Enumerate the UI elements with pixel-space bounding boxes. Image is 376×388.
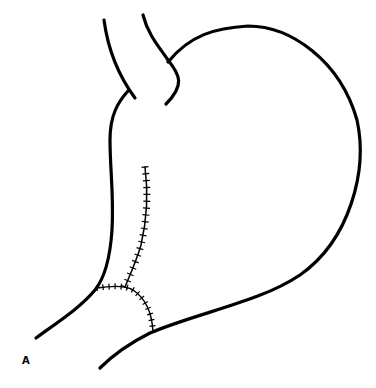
panel-label: A xyxy=(22,355,30,366)
staple-tick xyxy=(121,284,122,290)
arc-staple-line xyxy=(97,283,156,332)
staple-tick xyxy=(142,215,149,216)
staple-tick xyxy=(147,313,153,315)
stomach-diagram xyxy=(0,0,376,388)
staple-tick xyxy=(149,319,155,320)
staple-tick xyxy=(140,235,147,236)
esophagus-right-wall xyxy=(143,15,179,104)
staple-tick xyxy=(150,326,156,327)
staple-tick xyxy=(142,173,149,174)
esophagus-left-wall xyxy=(104,20,135,98)
greater-curvature xyxy=(100,26,360,368)
staple-tick xyxy=(142,167,149,168)
vertical-staple-line xyxy=(122,167,151,289)
staple-tick xyxy=(141,228,148,229)
staple-tick xyxy=(103,284,104,290)
lesser-curvature xyxy=(36,91,128,338)
staple-tick xyxy=(142,221,149,222)
staple-tick xyxy=(126,285,128,291)
staple-tick xyxy=(138,241,145,243)
